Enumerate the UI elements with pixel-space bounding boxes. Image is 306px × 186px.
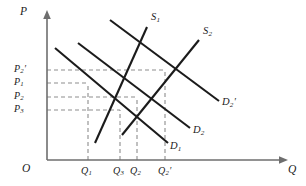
- demand-curve-d1: [55, 48, 168, 143]
- supply-curve-s1: [95, 27, 147, 143]
- guide-lines-group: [47, 70, 165, 160]
- y-axis-label: P: [20, 6, 27, 18]
- origin-label-text: O: [22, 162, 30, 174]
- x-axis-label: Q: [288, 164, 296, 176]
- x-axis-arrowhead: [279, 156, 288, 164]
- supply-curve-label-s2: S2: [203, 26, 212, 38]
- demand-curve-label-d2: D2: [193, 125, 204, 137]
- price-tick-label-p1: P1: [14, 77, 24, 88]
- price-tick-label-p3: P3: [14, 104, 24, 115]
- quantity-tick-label-q1: Q1: [81, 166, 92, 177]
- y-axis-arrowhead: [43, 10, 51, 19]
- demand-curve-label-d1: D1: [170, 141, 181, 153]
- quantity-tick-label-q2prime: Q2′: [158, 166, 171, 177]
- quantity-tick-label-q2: Q2: [130, 166, 141, 177]
- supply-curve-s2: [122, 40, 199, 135]
- price-tick-label-p2: P2: [14, 91, 24, 102]
- origin-label: O: [22, 163, 30, 175]
- demand-curve-label-d2prime: D2′: [222, 97, 236, 109]
- y-axis-label-text: P: [20, 5, 27, 17]
- supply-curve-label-s1: S1: [151, 12, 160, 24]
- supply-demand-figure: P Q O P2′P1P2P3Q1Q3Q2Q2′ S1S2D1D2D2′: [0, 0, 306, 186]
- diagram-canvas: [0, 0, 306, 186]
- quantity-tick-label-q3: Q3: [113, 166, 124, 177]
- x-axis-label-text: Q: [288, 163, 296, 175]
- price-tick-label-p2prime: P2′: [14, 64, 26, 75]
